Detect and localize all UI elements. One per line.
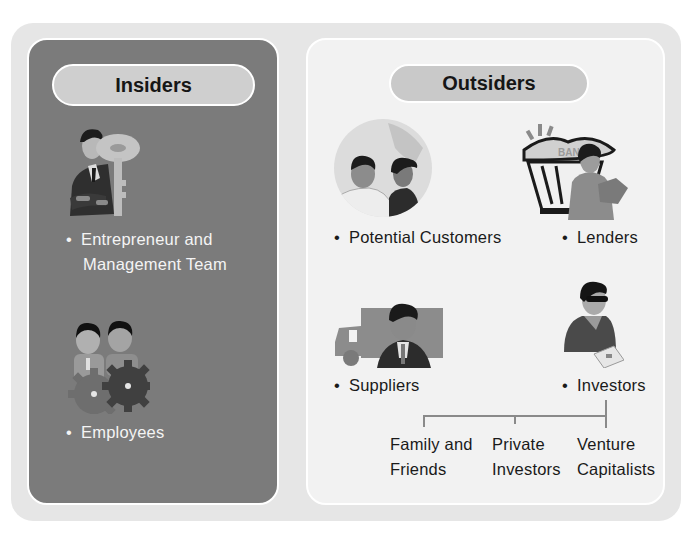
bullet: • [66,420,72,445]
investor-type-line1: Venture [577,435,635,453]
connector-tick-private [514,415,516,424]
insiders-title: Insiders [52,64,255,106]
investor-type-private-investors: Private Investors [492,432,561,482]
employees-label: Employees [81,423,164,441]
connector-tick-family [423,415,425,427]
outsiders-title-text: Outsiders [442,72,535,95]
svg-text:BAN: BAN [558,147,580,158]
bank-lender-icon: BAN [518,120,630,220]
investor-type-line2: Investors [492,460,561,478]
insider-label-line2: Management Team [66,255,227,273]
potential-customers-label: Potential Customers [349,228,501,246]
bullet: • [334,373,340,398]
insiders-title-text: Insiders [115,74,192,97]
lenders-label: Lenders [577,228,638,246]
investor-type-line2: Capitalists [577,460,655,478]
bullet: • [66,227,72,252]
insider-item-entrepreneur: •Entrepreneur and Management Team [66,227,227,277]
bullet: • [562,373,568,398]
outsider-item-potential-customers: •Potential Customers [334,225,501,250]
investor-type-line1: Private [492,435,545,453]
investor-type-family-friends: Family and Friends [390,432,473,482]
workers-with-gears-icon [66,318,150,414]
supplier-truck-icon [333,298,445,368]
bullet: • [334,225,340,250]
investor-type-line2: Friends [390,460,446,478]
outsider-item-lenders: •Lenders [562,225,638,250]
businessman-with-key-icon [66,124,146,224]
insider-label-line1: Entrepreneur and [81,230,213,248]
investors-label: Investors [577,376,646,394]
customers-globe-icon [333,118,433,220]
insider-item-employees: •Employees [66,420,164,445]
outsider-item-suppliers: •Suppliers [334,373,420,398]
outsider-item-investors: •Investors [562,373,646,398]
suppliers-label: Suppliers [349,376,420,394]
connector-investors-stem [605,400,607,428]
investor-icon [562,278,624,368]
investor-type-line1: Family and [390,435,473,453]
outsiders-title: Outsiders [389,64,589,103]
investor-type-venture-capitalists: Venture Capitalists [577,432,655,482]
bullet: • [562,225,568,250]
